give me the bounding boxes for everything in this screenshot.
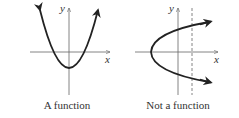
x-axis-label: x xyxy=(105,53,110,65)
function-graph xyxy=(30,8,110,95)
caption-function: A function xyxy=(44,99,91,111)
x-axis-label: x xyxy=(214,53,219,65)
not-function-graph xyxy=(135,8,218,95)
y-axis-label: y xyxy=(169,2,174,14)
caption-not-function: Not a function xyxy=(146,99,210,111)
y-axis-label: y xyxy=(60,2,65,14)
